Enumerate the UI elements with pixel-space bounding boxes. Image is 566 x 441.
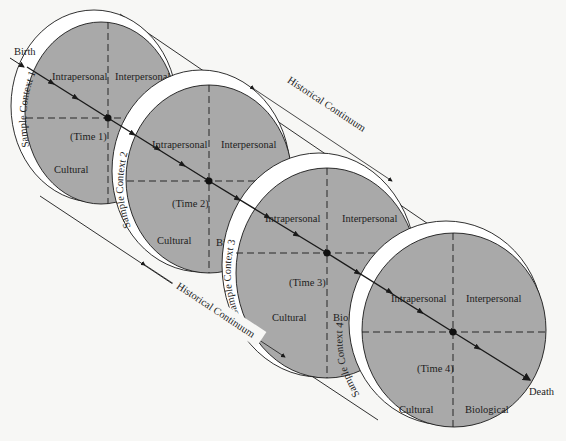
quadrant-interpersonal-2: Interpersonal (221, 139, 276, 150)
quadrant-interpersonal-4: Interpersonal (466, 293, 521, 304)
time-point-1 (105, 115, 112, 122)
quadrant-cultural-3: Cultural (272, 312, 306, 323)
time-point-2 (206, 178, 213, 185)
quadrant-intrapersonal-2: Intrapersonal (152, 139, 207, 150)
life-span-diagram: Intrapersonal Interpersonal Cultural B (… (0, 0, 566, 441)
time-point-3 (324, 250, 331, 257)
quadrant-biological-3: Biol (333, 312, 351, 323)
quadrant-biological-4: Biological (465, 404, 509, 415)
quadrant-intrapersonal-3: Intrapersonal (265, 213, 320, 224)
quadrant-cultural-1: Cultural (54, 164, 88, 175)
time-label-4: (Time 4) (417, 363, 454, 375)
time-label-1: (Time 1) (70, 131, 107, 143)
quadrant-intrapersonal-1: Intrapersonal (52, 71, 107, 82)
time-label-3: (Time 3) (289, 277, 326, 289)
death-label: Death (529, 386, 555, 397)
time-point-4 (450, 329, 457, 336)
quadrant-interpersonal-3: Interpersonal (342, 213, 397, 224)
historical-continuum-label-top: Historical Continuum (286, 74, 368, 134)
quadrant-cultural-2: Cultural (157, 235, 191, 246)
quadrant-cultural-4: Cultural (399, 404, 433, 415)
birth-label: Birth (14, 46, 36, 57)
time-label-2: (Time 2) (172, 198, 209, 210)
